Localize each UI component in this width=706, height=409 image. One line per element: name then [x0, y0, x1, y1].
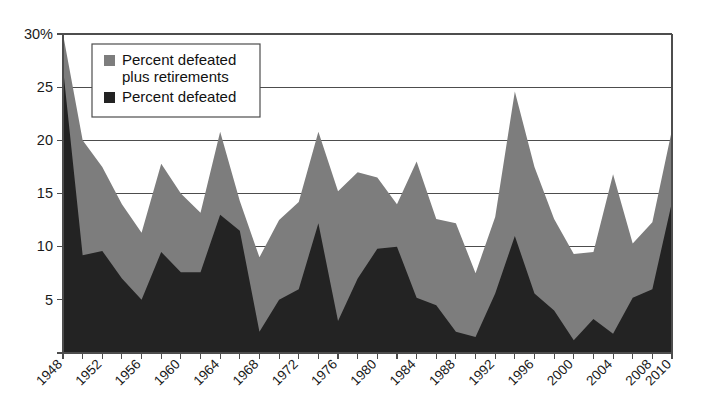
- y-tick-label-30: 30%: [24, 26, 53, 42]
- legend-swatch-gray: [104, 55, 115, 66]
- y-tick-label-5: 5: [45, 292, 53, 308]
- y-tick-label-20: 20: [37, 132, 53, 148]
- y-tick-label-25: 25: [37, 79, 53, 95]
- legend-label-gray-line2: plus retirements: [122, 68, 229, 85]
- chart-legend: Percent defeatedplus retirementsPercent …: [92, 44, 260, 117]
- area-chart: 51015202530% 194819521956196019641968197…: [0, 0, 706, 409]
- legend-label-black: Percent defeated: [122, 88, 236, 105]
- legend-swatch-black: [104, 92, 115, 103]
- y-tick-label-15: 15: [37, 185, 53, 201]
- legend-label-gray-line1: Percent defeated: [122, 51, 236, 68]
- y-tick-label-10: 10: [37, 238, 53, 254]
- chart-container: 51015202530% 194819521956196019641968197…: [0, 0, 706, 409]
